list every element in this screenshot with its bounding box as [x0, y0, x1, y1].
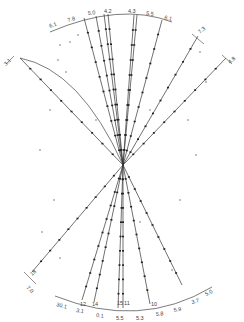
track-point	[140, 200, 142, 202]
inner-bottom-label: 15	[117, 300, 123, 306]
track-point	[152, 224, 154, 226]
track-point	[110, 205, 112, 207]
track-point	[111, 105, 113, 107]
top-arc-label: 7.8	[67, 15, 76, 23]
upper-left-label: 3.1	[2, 57, 12, 67]
track-point	[89, 272, 91, 274]
track-point	[157, 236, 159, 238]
track-point	[118, 293, 120, 295]
track-point	[67, 228, 69, 230]
track-point	[118, 279, 120, 281]
scatter-point	[179, 199, 180, 200]
scatter-point	[57, 59, 58, 60]
track-point	[110, 120, 112, 122]
track-point	[138, 106, 140, 108]
track-point	[129, 74, 131, 76]
track-point	[130, 59, 132, 61]
track-point	[86, 207, 88, 209]
track-point	[122, 179, 124, 181]
scatter-point	[53, 199, 54, 200]
track-point	[102, 232, 104, 234]
track-point	[125, 134, 127, 136]
track-point	[122, 207, 124, 209]
track-point	[122, 221, 124, 223]
scatter-point	[41, 231, 42, 232]
track-point	[129, 89, 131, 91]
track-point	[109, 90, 111, 92]
track-point	[122, 279, 124, 281]
track-point	[110, 43, 112, 45]
bottom-arc-label: 3.7	[191, 297, 200, 305]
track-point	[182, 61, 184, 63]
track-point	[153, 48, 155, 50]
top-arc-label: 5.5	[146, 10, 154, 17]
upper-right-tick-1	[192, 34, 204, 44]
track-point	[134, 121, 136, 123]
track-point	[105, 246, 107, 248]
inner-bottom-label: 11	[124, 300, 130, 306]
track-point	[141, 262, 143, 264]
track-point	[103, 60, 105, 62]
track-point	[144, 275, 146, 277]
track-point	[113, 205, 115, 207]
bottom-arc-label: 30.1	[56, 301, 68, 310]
track-point	[100, 45, 102, 47]
track-point	[163, 121, 165, 123]
track-point	[49, 250, 51, 252]
track-point	[107, 43, 109, 45]
track-point	[169, 260, 171, 262]
track-point	[106, 75, 108, 77]
scatter-point	[187, 119, 188, 120]
track-point	[126, 150, 128, 152]
scatter-point	[171, 269, 172, 270]
track-point	[50, 89, 52, 91]
scatter-point	[149, 109, 150, 110]
scatter-point	[139, 221, 140, 222]
track-point	[119, 250, 121, 252]
track-point	[175, 74, 177, 76]
track-point	[81, 121, 83, 123]
track-point	[97, 245, 99, 247]
top-arc-label: 5.0	[87, 9, 95, 16]
track-point	[132, 29, 134, 31]
scatter-point	[205, 81, 206, 82]
track-point	[122, 236, 124, 238]
track-point	[184, 100, 186, 102]
scatter-point	[77, 34, 78, 35]
track-point	[60, 100, 62, 102]
track-point	[106, 105, 108, 107]
inner-bottom-label: 10	[151, 301, 157, 307]
track-point	[119, 134, 121, 136]
track-point	[99, 274, 101, 276]
track-point	[105, 28, 107, 30]
track-point	[123, 149, 125, 151]
scatter-point	[199, 51, 200, 52]
top-arc-label: 4.2	[104, 8, 112, 14]
track-point	[131, 44, 133, 46]
track-point	[215, 68, 217, 70]
track-point	[130, 151, 132, 153]
track-point	[116, 104, 118, 106]
track-point	[138, 248, 140, 250]
track-point	[40, 261, 42, 263]
track-point	[174, 111, 176, 113]
track-point	[111, 74, 113, 76]
track-point	[77, 218, 79, 220]
upper-right-label-1: 7.3	[197, 25, 207, 35]
track-point	[114, 120, 116, 122]
track-point	[108, 233, 110, 235]
track-point	[122, 293, 124, 295]
track-point	[120, 221, 122, 223]
scatter-point	[59, 257, 60, 258]
track-point	[134, 188, 136, 190]
track-point	[133, 220, 135, 222]
track-point	[146, 212, 148, 214]
track-point	[122, 250, 124, 252]
track-point	[132, 59, 134, 61]
track-point	[149, 63, 151, 65]
track-point	[127, 192, 129, 194]
track-point	[130, 135, 132, 137]
scatter-point	[195, 154, 196, 155]
track-point	[143, 143, 145, 145]
track-point	[152, 113, 154, 115]
